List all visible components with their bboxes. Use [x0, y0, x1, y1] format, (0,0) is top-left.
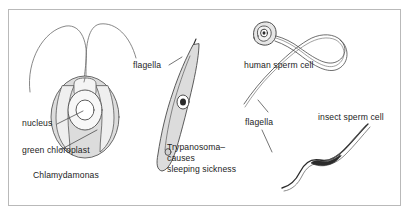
insect-sperm-cell-icon — [282, 124, 370, 191]
label-green-chloroplast: green chloroplast — [22, 145, 90, 156]
flagella-left-leader-line — [169, 57, 182, 65]
label-flagella-right: flagella — [245, 117, 273, 128]
label-flagella-left: flagella — [133, 60, 161, 71]
label-nucleus: nucleus — [22, 118, 52, 129]
label-insect-sperm-cell: insect sperm cell — [318, 112, 384, 123]
label-human-sperm-cell: human sperm cell — [244, 60, 313, 71]
label-trypanosoma-text: Trypanosoma– causes sleeping sickness — [167, 142, 236, 174]
flagella-right-leader-down — [262, 130, 272, 152]
label-trypanosoma: Trypanosoma– causes sleeping sickness — [167, 142, 241, 175]
flagella-right-leader-up — [258, 100, 268, 112]
label-chlamydomonas: Chlamydamonas — [33, 170, 99, 181]
diagram-artwork — [0, 0, 411, 217]
diagram-canvas: flagella nucleus green chloroplast Chlam… — [0, 0, 411, 217]
